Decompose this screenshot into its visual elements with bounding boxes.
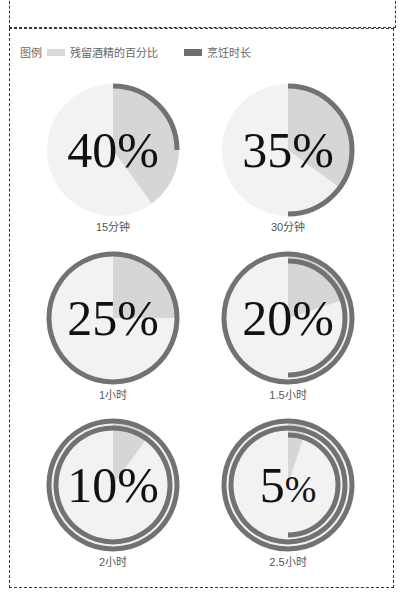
pie-grid: 40%15分钟35%30分钟25%1小时20%1.5小时10%2小时5%2.5小… bbox=[0, 0, 415, 610]
pie-panel: 5%2.5小时 bbox=[222, 419, 354, 568]
duration-label: 1小时 bbox=[99, 389, 127, 401]
percent-value: 40% bbox=[67, 122, 159, 178]
pie-panel: 20%1.5小时 bbox=[222, 252, 354, 401]
percent-value: 25% bbox=[67, 290, 159, 346]
duration-label: 30分钟 bbox=[271, 220, 305, 233]
percent-value: 35% bbox=[242, 122, 334, 178]
pie-panel: 35%30分钟 bbox=[222, 84, 354, 233]
pie-panel: 25%1小时 bbox=[47, 252, 179, 401]
pie-panel: 40%15分钟 bbox=[47, 84, 179, 233]
pie-panel: 10%2小时 bbox=[47, 419, 179, 568]
duration-label: 15分钟 bbox=[96, 220, 130, 233]
duration-label: 1.5小时 bbox=[269, 389, 306, 401]
duration-label: 2小时 bbox=[99, 556, 127, 568]
percent-value: 10% bbox=[67, 457, 159, 513]
duration-label: 2.5小时 bbox=[269, 556, 306, 568]
percent-value: 20% bbox=[242, 290, 334, 346]
